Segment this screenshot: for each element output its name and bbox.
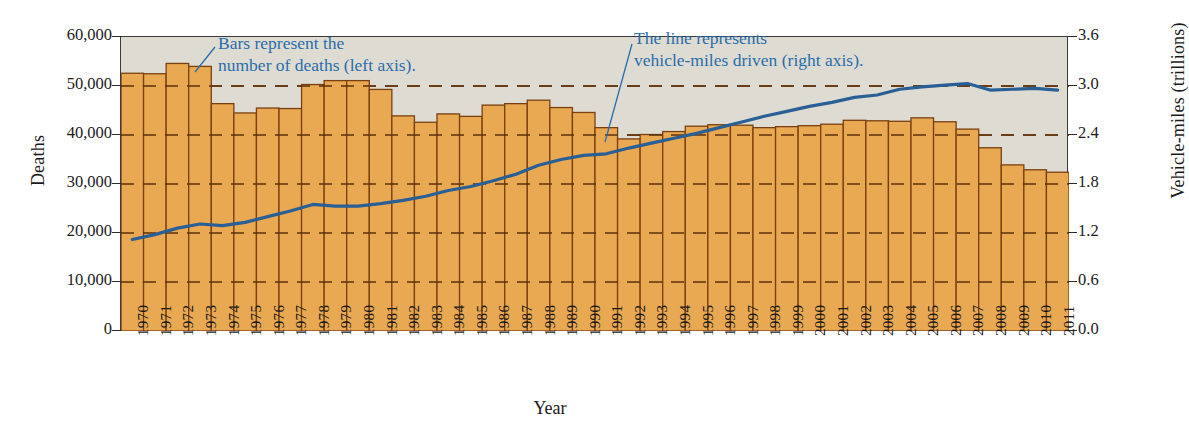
bar xyxy=(144,74,167,331)
annotation-bars: Bars represent the number of deaths (lef… xyxy=(218,33,416,77)
x-axis-tick-label: 1974 xyxy=(227,305,242,336)
bar xyxy=(776,127,799,331)
y-axis-left-tick-label: 60,000 xyxy=(0,27,112,44)
y-axis-left-tick-mark xyxy=(112,281,121,282)
bar xyxy=(460,116,483,331)
x-axis-tick-label: 1979 xyxy=(339,305,354,336)
bar xyxy=(618,139,641,331)
y-axis-right-tick-mark xyxy=(1068,281,1077,282)
bar xyxy=(866,121,889,331)
bar xyxy=(392,116,415,331)
y-axis-right-tick-mark xyxy=(1068,232,1077,233)
x-axis-title: Year xyxy=(0,398,1100,419)
x-axis-tick-label: 1987 xyxy=(520,305,535,336)
bar xyxy=(685,126,708,331)
x-axis-tick-label: 1971 xyxy=(159,305,174,336)
x-axis-tick-label: 1986 xyxy=(497,305,512,336)
bar-series xyxy=(121,63,1069,331)
y-axis-right-tick-label: 3.0 xyxy=(1078,76,1124,93)
y-axis-left-tick-mark xyxy=(112,330,121,331)
x-axis-tick-label: 1985 xyxy=(475,305,490,336)
x-axis-tick-label: 2009 xyxy=(1017,305,1032,336)
y-axis-right-tick-label: 2.4 xyxy=(1078,125,1124,142)
bar xyxy=(482,105,505,331)
x-axis-tick-label: 2005 xyxy=(926,305,941,336)
x-axis-tick-label: 2004 xyxy=(904,305,919,336)
y-axis-left-title: Deaths xyxy=(28,91,49,231)
x-axis-tick-label: 1976 xyxy=(272,305,287,336)
bar xyxy=(708,125,731,331)
x-axis-tick-label: 1981 xyxy=(385,305,400,336)
x-axis-tick-label: 1977 xyxy=(294,305,309,336)
bar xyxy=(730,125,753,331)
x-axis-tick-label: 2006 xyxy=(949,305,964,336)
y-axis-left-tick-label: 10,000 xyxy=(0,272,112,289)
x-axis-tick-label: 1994 xyxy=(678,305,693,336)
bar xyxy=(798,126,821,331)
y-axis-left-tick-label: 40,000 xyxy=(0,125,112,142)
bar xyxy=(753,128,776,331)
x-axis-tick-label: 1978 xyxy=(317,305,332,336)
x-axis-tick-label: 1995 xyxy=(701,305,716,336)
x-axis-tick-label: 1983 xyxy=(430,305,445,336)
x-axis-tick-label: 2010 xyxy=(1039,305,1054,336)
bar xyxy=(211,104,234,331)
bar xyxy=(505,104,528,331)
x-axis-tick-label: 1990 xyxy=(588,305,603,336)
x-axis-tick-label: 2000 xyxy=(813,305,828,336)
y-axis-right-tick-mark xyxy=(1068,183,1077,184)
x-axis-tick-label: 1991 xyxy=(610,305,625,336)
bar xyxy=(166,63,189,331)
bar xyxy=(369,89,392,331)
bar xyxy=(911,118,934,331)
y-axis-right-title: Vehicle-miles (trillions) xyxy=(1168,0,1189,231)
y-axis-left-tick-mark xyxy=(112,183,121,184)
y-axis-left-tick-label: 20,000 xyxy=(0,223,112,240)
x-axis-tick-label: 1988 xyxy=(543,305,558,336)
x-axis-tick-label: 2008 xyxy=(994,305,1009,336)
x-axis-tick-label: 1999 xyxy=(791,305,806,336)
x-axis-tick-label: 1970 xyxy=(136,305,151,336)
bar xyxy=(279,109,302,331)
plot-area xyxy=(120,36,1068,330)
x-axis-tick-label: 1982 xyxy=(407,305,422,336)
y-axis-left-tick-label: 50,000 xyxy=(0,76,112,93)
y-axis-right-tick-label: 1.8 xyxy=(1078,174,1124,191)
x-axis-tick-label: 2001 xyxy=(836,305,851,336)
x-axis-tick-label: 2011 xyxy=(1062,305,1077,336)
y-axis-left-tick-mark xyxy=(112,232,121,233)
x-axis-tick-label: 1984 xyxy=(452,305,467,336)
y-axis-left-tick-mark xyxy=(112,134,121,135)
x-axis-tick-label: 1973 xyxy=(204,305,219,336)
y-axis-left-tick-label: 0 xyxy=(0,321,112,338)
y-axis-left-tick-mark xyxy=(112,85,121,86)
bar xyxy=(189,66,212,331)
bar xyxy=(572,112,595,331)
x-axis-tick-label: 1993 xyxy=(655,305,670,336)
x-axis-tick-label: 1980 xyxy=(362,305,377,336)
bar xyxy=(843,120,866,331)
y-axis-left-tick-label: 30,000 xyxy=(0,174,112,191)
annotation-line: The line represents vehicle-miles driven… xyxy=(634,28,863,72)
bar xyxy=(550,108,573,331)
y-axis-right-tick-label: 0.0 xyxy=(1078,321,1124,338)
x-axis-tick-label: 1998 xyxy=(768,305,783,336)
y-axis-right-tick-mark xyxy=(1068,85,1077,86)
y-axis-right-tick-label: 0.6 xyxy=(1078,272,1124,289)
y-axis-right-tick-label: 3.6 xyxy=(1078,27,1124,44)
bar xyxy=(663,132,686,331)
x-axis-tick-label: 1997 xyxy=(746,305,761,336)
x-axis-tick-label: 1989 xyxy=(565,305,580,336)
x-axis-tick-label: 2003 xyxy=(881,305,896,336)
y-axis-right-tick-mark xyxy=(1068,134,1077,135)
bar xyxy=(437,114,460,331)
x-axis-tick-label: 2007 xyxy=(971,305,986,336)
bar xyxy=(414,122,437,331)
x-axis-tick-label: 1992 xyxy=(633,305,648,336)
bar xyxy=(979,148,1002,331)
x-axis-tick-label: 1972 xyxy=(181,305,196,336)
bar xyxy=(821,124,844,331)
bar xyxy=(595,128,618,331)
x-axis-tick-label: 2002 xyxy=(859,305,874,336)
